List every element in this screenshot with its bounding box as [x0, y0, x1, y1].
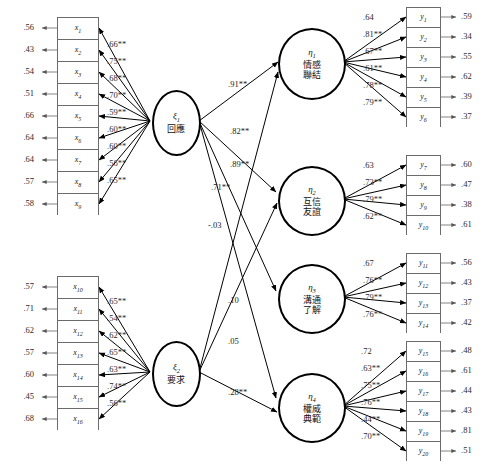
indicator-box: x3 [58, 62, 98, 84]
residual-value: .55 [461, 52, 472, 61]
indicator-label: y8 [420, 181, 427, 191]
loading-value: .70** [361, 432, 380, 441]
indicator-box: x15 [58, 387, 98, 409]
indicator-box: y10 [407, 216, 440, 236]
indicator-label: y10 [419, 221, 429, 231]
residual-value: .60 [4, 370, 34, 379]
loading-value: .76** [361, 398, 380, 407]
indicator-box: x9 [58, 194, 98, 216]
latent-label-line2: 聯結 [303, 70, 322, 80]
indicator-column-eta3: y11 y12 y13 y14 [406, 253, 441, 333]
indicator-box: y3 [407, 48, 440, 68]
latent-variable-eta1[interactable]: η1 情感 聯結 [278, 28, 346, 100]
indicator-box: y13 [407, 294, 440, 314]
latent-label: 回應 [167, 124, 186, 134]
residual-value: .62 [4, 326, 34, 335]
residual-value: .56 [461, 258, 472, 267]
residual-value: .48 [461, 346, 472, 355]
loading-value: .54** [107, 314, 126, 323]
indicator-label: y3 [420, 53, 427, 63]
indicator-column-xi2: x10 x11 x12 x13 x14 x15 x16 [57, 276, 99, 430]
latent-variable-eta2[interactable]: η2 互信 友誼 [278, 166, 346, 236]
indicator-label: y12 [419, 279, 429, 289]
residual-value: .37 [461, 298, 472, 307]
residual-value: .68 [4, 414, 34, 423]
indicator-label: y19 [419, 427, 429, 437]
latent-variable-xi1[interactable]: ξ1 回應 [152, 90, 201, 156]
loading-value: .63** [107, 365, 126, 374]
latent-variable-eta4[interactable]: η4 權威 典範 [278, 373, 346, 443]
indicator-label: x2 [75, 46, 82, 56]
indicator-label: x12 [73, 327, 83, 337]
loading-value: .79** [363, 195, 382, 204]
loading-value: .59** [107, 108, 126, 117]
loading-value: .63 [363, 161, 374, 170]
latent-symbol: η2 [308, 185, 316, 197]
indicator-label: x8 [75, 178, 82, 188]
indicator-label: y17 [419, 387, 429, 397]
indicator-column-xi1: x1 x2 x3 x4 x5 x6 x7 x8 x9 [57, 17, 99, 215]
indicator-column-eta2: y7 y8 y9 y10 [406, 155, 441, 235]
indicator-box: y12 [407, 274, 440, 294]
indicator-box: x11 [58, 299, 98, 321]
residual-value: .59 [461, 12, 472, 21]
indicator-label: x11 [73, 305, 82, 315]
residual-value: .44 [461, 386, 472, 395]
loading-value: .76** [363, 276, 382, 285]
residual-value: .34 [461, 32, 472, 41]
loading-value: .68** [107, 74, 126, 83]
indicator-label: x10 [73, 283, 83, 293]
indicator-box: y6 [407, 108, 440, 128]
indicator-box: x4 [58, 84, 98, 106]
indicator-column-eta4: y15 y16 y17 y18 y19 y20 [406, 341, 441, 461]
loading-value: .44** [361, 415, 380, 424]
residual-value: .57 [4, 348, 34, 357]
indicator-box: y1 [407, 8, 440, 28]
indicator-box: x5 [58, 106, 98, 128]
latent-variable-xi2[interactable]: ξ2 要求 [152, 341, 201, 407]
indicator-box: x2 [58, 40, 98, 62]
path-coefficient-xi1-eta2: .82** [230, 127, 249, 136]
indicator-label: x14 [73, 371, 83, 381]
latent-variable-eta3[interactable]: η3 溝通 了解 [278, 264, 346, 334]
indicator-box: x16 [58, 409, 98, 431]
loading-value: .70** [107, 91, 126, 100]
residual-value: .61 [461, 366, 472, 375]
indicator-label: x3 [75, 68, 82, 78]
residual-value: .57 [4, 177, 34, 186]
indicator-box: y4 [407, 68, 440, 88]
loading-value: .81** [363, 30, 382, 39]
path-coefficient-xi1-eta1: .91** [228, 80, 247, 89]
path-coefficient-xi1-eta3: .89** [230, 160, 249, 169]
indicator-box: x10 [58, 277, 98, 299]
latent-symbol: η1 [308, 48, 316, 60]
residual-value: .42 [461, 318, 472, 327]
loading-value: .65** [107, 348, 126, 357]
latent-label-line2: 了解 [303, 305, 322, 315]
loading-value: .67 [363, 259, 374, 268]
loading-value: .72 [361, 347, 372, 356]
residual-value: .47 [461, 180, 472, 189]
indicator-box: y5 [407, 88, 440, 108]
indicator-label: y11 [419, 259, 428, 269]
indicator-label: x9 [75, 200, 82, 210]
latent-label-line1: 情感 [303, 60, 322, 70]
residual-value: .54 [4, 67, 34, 76]
indicator-box: y14 [407, 314, 440, 334]
indicator-label: y16 [419, 367, 429, 377]
loading-value: .63** [361, 364, 380, 373]
residual-value: .43 [461, 406, 472, 415]
residual-value: .57 [4, 282, 34, 291]
loading-value: .60** [107, 142, 126, 151]
indicator-column-eta1: y1 y2 y3 y4 y5 y6 [406, 7, 441, 127]
indicator-label: y1 [420, 13, 427, 23]
residual-value: .71 [4, 304, 34, 313]
loading-value: .67** [363, 47, 382, 56]
path-coefficient-xi2-eta4: .28** [228, 388, 247, 397]
loading-value: .75** [361, 381, 380, 390]
indicator-label: x4 [75, 90, 82, 100]
indicator-label: x6 [75, 134, 82, 144]
residual-value: .64 [4, 133, 34, 142]
loading-value: .56** [107, 399, 126, 408]
residual-value: .38 [461, 200, 472, 209]
